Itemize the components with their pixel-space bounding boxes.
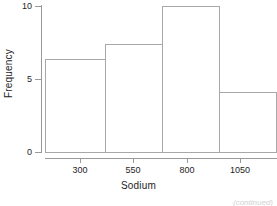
histogram-bar	[219, 92, 277, 153]
x-axis-label: Sodium	[0, 180, 277, 191]
histogram-bar	[162, 6, 220, 153]
x-tick-label-300: 300	[60, 166, 100, 175]
x-tick-550	[133, 158, 134, 163]
x-tick-800	[187, 158, 188, 163]
continued-note: (continued)	[233, 198, 273, 206]
x-tick-1050	[240, 158, 241, 163]
x-tick-300	[80, 158, 81, 163]
x-tick-label-550: 550	[113, 166, 153, 175]
x-tick-label-800: 800	[167, 166, 207, 175]
histogram-bars	[0, 0, 277, 206]
histogram-bar	[105, 44, 163, 153]
histogram-bar	[45, 59, 106, 153]
histogram-figure: Frequency 0 5 10 300 550 800 1050 Sodium…	[0, 0, 277, 206]
x-tick-label-1050: 1050	[220, 166, 260, 175]
